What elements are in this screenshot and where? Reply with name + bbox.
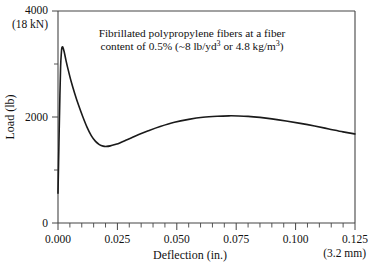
y-axis-title: Load (lb) [3, 95, 17, 140]
y-tick-label-0: 0 [42, 217, 48, 229]
y-tick-label-2000: 2000 [25, 111, 48, 123]
x-axis-minor-ticks [70, 223, 343, 228]
data-series-load-deflection [58, 47, 355, 194]
y-axis-ticks [52, 11, 58, 223]
x-tick-label-0.100: 0.100 [283, 233, 309, 245]
x-tick-label-0.025: 0.025 [104, 233, 130, 245]
annotation-line-2-part-c: ) [280, 40, 284, 53]
x-axis-secondary-unit-label: (3.2 mm) [323, 247, 366, 260]
y-tick-label-4000: 4000 [25, 4, 48, 16]
annotation-line-2: content of 0.5% (~8 lb/yd3 or 4.8 kg/m3) [100, 39, 283, 53]
chart-annotation: Fibrillated polypropylene fibers at a fi… [99, 27, 286, 53]
y-axis-secondary-unit-label: (18 kN) [12, 18, 48, 31]
annotation-line-1: Fibrillated polypropylene fibers at a fi… [99, 27, 286, 39]
x-tick-label-0.050: 0.050 [164, 233, 190, 245]
x-axis-title: Deflection (in.) [153, 248, 227, 262]
x-tick-label-0.075: 0.075 [223, 233, 249, 245]
chart-svg: 0 2000 4000 (18 kN) Load (lb) [0, 0, 373, 267]
x-tick-label-0.125: 0.125 [342, 233, 368, 245]
annotation-line-2-part-b: or 4.8 kg/m [221, 40, 276, 52]
chart-figure: 0 2000 4000 (18 kN) Load (lb) [0, 0, 373, 267]
x-axis-ticks [58, 223, 355, 230]
annotation-line-2-part-a: content of 0.5% (~8 lb/yd [100, 40, 217, 53]
x-tick-label-0.000: 0.000 [45, 233, 71, 245]
